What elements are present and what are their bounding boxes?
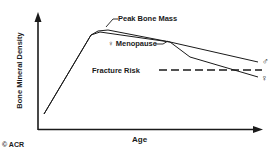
female-symbol-icon: ♀ — [261, 73, 268, 83]
fracture-risk-label: Fracture Risk — [92, 66, 140, 75]
menopause-label: ♀ Menopause — [108, 39, 157, 48]
x-axis-label: Age — [132, 135, 147, 144]
x-axis-arrow-icon — [253, 126, 263, 133]
peak-leader-line — [106, 19, 118, 27]
y-axis-arrow-icon — [35, 12, 42, 22]
chart-canvas — [0, 0, 280, 156]
peak-bone-mass-label: Peak Bone Mass — [118, 14, 177, 23]
male-symbol-icon: ♂ — [262, 56, 269, 66]
y-axis-label: Bone Mineral Density — [15, 26, 24, 116]
copyright-label: © ACR — [2, 141, 24, 148]
